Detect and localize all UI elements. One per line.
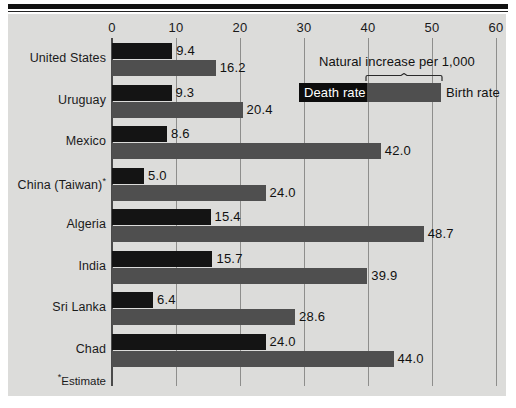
category-label-6: Sri Lanka (0, 300, 106, 314)
birth-rate-value-label: 20.4 (247, 102, 273, 118)
chart-row: China (Taiwan)*5.024.0 (8, 167, 506, 207)
death-rate-value-label: 6.4 (157, 292, 176, 308)
birth-rate-value-label: 48.7 (428, 226, 454, 242)
top-rule-thin (8, 11, 508, 12)
birth-rate-bar (112, 60, 216, 76)
death-rate-value-label: 9.3 (176, 85, 195, 101)
chart-panel: 0102030405060United States9.416.2Uruguay… (8, 14, 506, 396)
x-tick-label-20: 20 (233, 20, 248, 35)
death-rate-bar (112, 126, 167, 142)
legend-bracket-icon (365, 73, 443, 82)
birth-rate-value-label: 42.0 (385, 143, 411, 159)
x-tick-label-40: 40 (361, 20, 376, 35)
category-label-4: Algeria (0, 217, 106, 231)
death-rate-bar (112, 85, 172, 101)
birth-rate-bar (112, 226, 424, 242)
legend-birth-rate-label: Birth rate (446, 83, 500, 102)
birth-rate-bar (112, 185, 266, 201)
birth-rate-bar (112, 268, 367, 284)
chart-row: India15.739.9 (8, 250, 506, 290)
category-label-5: India (0, 259, 106, 273)
category-label-2: Mexico (0, 134, 106, 148)
footnote: *Estimate (0, 372, 106, 387)
legend-death-rate: Death rate (299, 83, 371, 102)
death-rate-bar (112, 209, 211, 225)
death-rate-value-label: 15.4 (215, 209, 241, 225)
chart-row: Algeria15.448.7 (8, 208, 506, 248)
category-label-7: Chad (0, 342, 106, 356)
birth-rate-value-label: 24.0 (270, 185, 296, 201)
category-label-1: Uruguay (0, 93, 106, 107)
chart-row: Sri Lanka6.428.6 (8, 291, 506, 331)
birth-rate-value-label: 16.2 (220, 60, 246, 76)
death-rate-bar (112, 334, 266, 350)
population-rates-chart-figure: 0102030405060United States9.416.2Uruguay… (0, 0, 516, 408)
category-label-3: China (Taiwan)* (0, 176, 106, 192)
birth-rate-value-label: 39.9 (371, 268, 397, 284)
death-rate-bar (112, 43, 172, 59)
death-rate-value-label: 5.0 (148, 168, 167, 184)
death-rate-bar (112, 292, 153, 308)
birth-rate-value-label: 44.0 (398, 351, 424, 367)
birth-rate-bar (112, 143, 381, 159)
x-tick-label-0: 0 (108, 20, 115, 35)
estimate-asterisk: * (102, 176, 106, 186)
death-rate-value-label: 24.0 (270, 334, 296, 350)
x-tick-label-30: 30 (297, 20, 312, 35)
birth-rate-bar (112, 309, 295, 325)
birth-rate-bar (112, 351, 394, 367)
birth-rate-bar (112, 102, 243, 118)
x-tick-label-60: 60 (489, 20, 504, 35)
chart-row: Mexico8.642.0 (8, 125, 506, 165)
category-label-0: United States (0, 51, 106, 65)
chart-row: Chad24.044.0 (8, 333, 506, 373)
birth-rate-value-label: 28.6 (299, 309, 325, 325)
death-rate-bar (112, 168, 144, 184)
death-rate-value-label: 8.6 (171, 126, 190, 142)
death-rate-value-label: 9.4 (176, 43, 195, 59)
death-rate-value-label: 15.7 (216, 251, 242, 267)
legend-birth-rate-swatch (367, 83, 441, 102)
x-tick-label-50: 50 (425, 20, 440, 35)
death-rate-bar (112, 251, 212, 267)
footnote-text: Estimate (61, 375, 106, 387)
x-tick-label-10: 10 (169, 20, 184, 35)
top-rule-thick (8, 4, 508, 9)
legend-bracket-title: Natural increase per 1,000 (319, 54, 475, 69)
plot-area: 0102030405060United States9.416.2Uruguay… (8, 14, 506, 396)
